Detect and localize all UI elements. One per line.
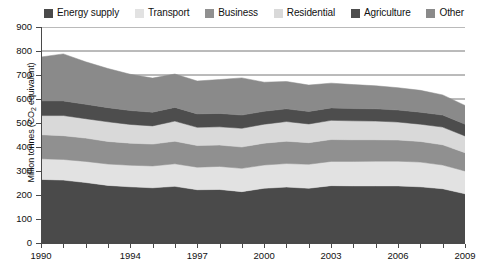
x-tick-mark-1992 [86,244,87,248]
y-tick-mark-700 [36,75,41,76]
x-tick-mark-1998 [220,244,221,248]
legend-item-transport[interactable]: Transport [135,8,190,18]
x-tick-mark-1995 [153,244,154,248]
y-tick-label: 600 [6,94,32,104]
legend-item-label: Other [439,8,464,18]
x-tick-label: 2003 [311,251,351,261]
legend-swatch-icon [135,9,144,18]
legend-item-business[interactable]: Business [205,8,258,18]
legend-swatch-icon [351,9,360,18]
y-tick-label: 300 [6,166,32,176]
x-tick-mark-2007 [420,244,421,248]
plot-svg [41,27,465,243]
y-tick-mark-600 [36,99,41,100]
legend-swatch-icon [426,9,435,18]
legend-item-label: Energy supply [57,8,119,18]
y-axis-title-subscript: 2 [30,107,37,111]
x-axis-line [41,243,465,244]
x-tick-mark-2009 [465,244,466,248]
x-tick-mark-1990 [41,244,42,248]
y-tick-label: 0 [6,238,32,248]
legend-item-agriculture[interactable]: Agriculture [351,8,411,18]
y-tick-label: 400 [6,142,32,152]
y-tick-label: 700 [6,70,32,80]
legend-swatch-icon [274,9,283,18]
y-tick-label: 500 [6,118,32,128]
y-tick-mark-300 [36,171,41,172]
x-tick-label: 2006 [378,251,418,261]
x-tick-mark-1999 [242,244,243,248]
y-tick-label: 900 [6,22,32,32]
x-tick-label: 2009 [445,251,480,261]
x-tick-mark-1991 [63,244,64,248]
y-tick-mark-900 [36,27,41,28]
legend-item-label: Residential [287,8,335,18]
legend-item-energy-supply[interactable]: Energy supply [44,8,119,18]
x-tick-label: 1990 [21,251,61,261]
x-tick-label: 1994 [110,251,150,261]
legend-item-other[interactable]: Other [426,8,464,18]
x-tick-mark-1997 [197,244,198,248]
plot-area [41,27,465,243]
y-tick-label: 800 [6,46,32,56]
y-tick-mark-100 [36,219,41,220]
x-tick-mark-2001 [286,244,287,248]
x-tick-mark-2006 [398,244,399,248]
x-tick-mark-1996 [175,244,176,248]
legend-swatch-icon [205,9,214,18]
x-tick-mark-1994 [130,244,131,248]
y-tick-label: 100 [6,214,32,224]
legend-item-label: Business [218,8,258,18]
x-tick-mark-2003 [331,244,332,248]
y-tick-mark-400 [36,147,41,148]
y-tick-mark-800 [36,51,41,52]
x-tick-label: 2000 [244,251,284,261]
x-tick-mark-2002 [309,244,310,248]
x-tick-mark-2004 [353,244,354,248]
x-tick-label: 1997 [177,251,217,261]
y-tick-mark-200 [36,195,41,196]
legend-swatch-icon [44,9,53,18]
y-axis-line [41,27,42,244]
legend-item-label: Transport [148,8,190,18]
y-tick-mark-500 [36,123,41,124]
y-tick-label: 200 [6,190,32,200]
x-tick-mark-2005 [376,244,377,248]
x-tick-mark-2000 [264,244,265,248]
chart-legend: Energy supplyTransportBusinessResidentia… [44,5,464,21]
legend-item-residential[interactable]: Residential [274,8,335,18]
x-tick-mark-1993 [108,244,109,248]
legend-item-label: Agriculture [364,8,411,18]
x-tick-mark-2008 [443,244,444,248]
